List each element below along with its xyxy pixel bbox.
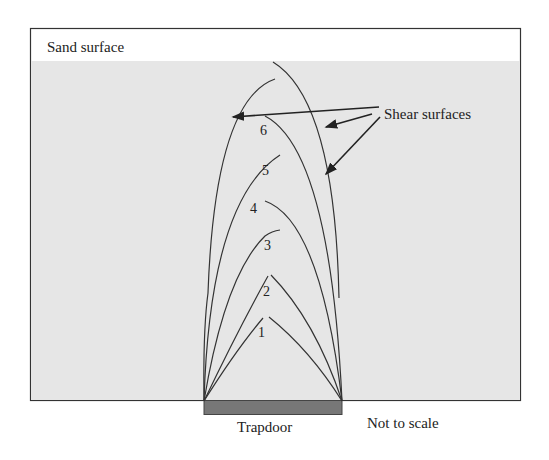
curve-number-3: 3 — [264, 238, 271, 253]
trapdoor-diagram: Sand surface Shear surfaces Trapdoor Not… — [0, 0, 549, 460]
trapdoor — [204, 401, 342, 415]
curve-number-1: 1 — [258, 325, 265, 340]
sand-surface-label: Sand surface — [47, 39, 124, 55]
trapdoor-label: Trapdoor — [237, 419, 292, 435]
curve-number-5: 5 — [262, 163, 269, 178]
curve-number-6: 6 — [260, 123, 267, 138]
not-to-scale-label: Not to scale — [367, 415, 439, 431]
curve-number-4: 4 — [250, 201, 257, 216]
curve-number-2: 2 — [263, 284, 270, 299]
shear-surfaces-label: Shear surfaces — [384, 106, 471, 122]
